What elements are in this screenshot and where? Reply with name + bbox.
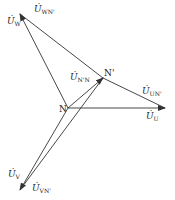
label-uvn: U̇VN' <box>32 182 51 194</box>
phasor-uw <box>20 14 68 108</box>
node-n: N <box>59 104 67 114</box>
node-n-prime: N' <box>104 68 114 78</box>
label-uun: U̇UN' <box>142 85 162 97</box>
label-uu: U̇U <box>146 110 159 122</box>
phasor-diagram: U̇W U̇WN' U̇N'N N' N U̇UN' U̇U U̇V U̇VN' <box>0 0 175 200</box>
label-uw: U̇W <box>7 15 22 27</box>
phasor-uv <box>20 108 68 190</box>
label-unn: U̇N'N <box>70 71 90 83</box>
label-uwn: U̇WN' <box>34 3 55 15</box>
phasor-uwn <box>20 14 103 78</box>
label-uv: U̇V <box>8 168 21 180</box>
